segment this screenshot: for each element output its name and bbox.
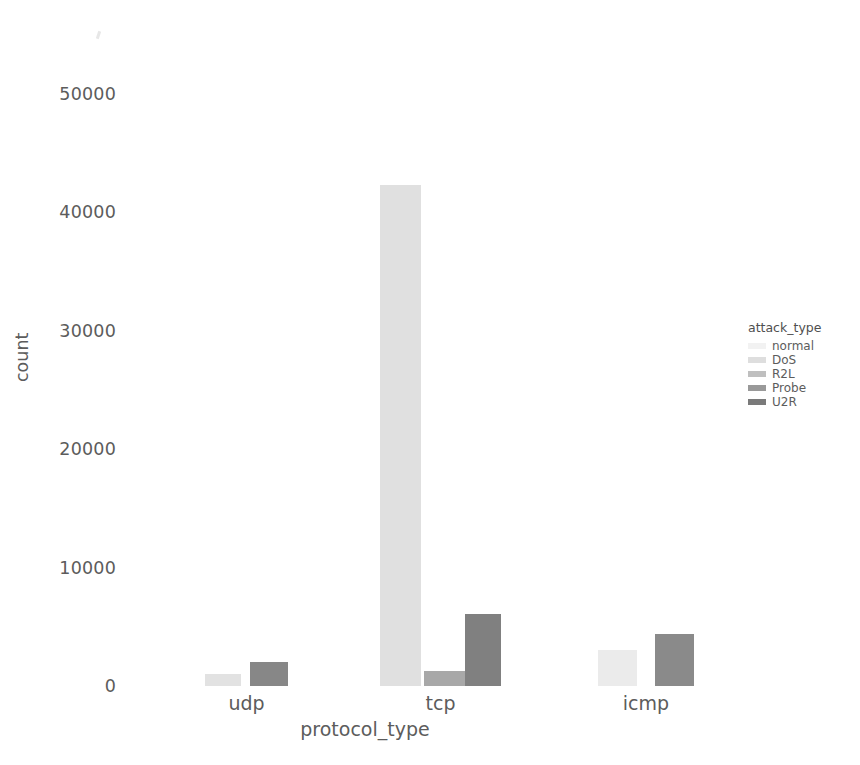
legend-label-normal: normal bbox=[772, 340, 814, 352]
bar-udp-U2R bbox=[250, 662, 288, 686]
legend-title: attack_type bbox=[748, 322, 821, 335]
legend-swatch-normal bbox=[748, 343, 766, 349]
legend-swatch-u2r bbox=[748, 399, 766, 405]
stray-mark-artifact bbox=[96, 31, 101, 40]
legend-swatch-probe bbox=[748, 385, 766, 391]
x-axis-title: protocol_type bbox=[0, 718, 730, 740]
y-axis-tick-50000: 50000 bbox=[26, 84, 116, 104]
bar-icmp-U2R bbox=[655, 634, 694, 686]
y-axis-tick-40000: 40000 bbox=[26, 202, 116, 222]
y-axis-tick-10000: 10000 bbox=[26, 558, 116, 578]
legend-item-u2r: U2R bbox=[748, 396, 821, 409]
y-axis-tick-0: 0 bbox=[26, 676, 116, 696]
legend-item-r2l: R2L bbox=[748, 368, 821, 381]
bar-udp-DoS bbox=[205, 674, 241, 686]
x-axis-tick-icmp: icmp bbox=[556, 692, 736, 714]
legend-swatch-r2l bbox=[748, 371, 766, 377]
legend-items: normalDoSR2LProbeU2R bbox=[748, 340, 821, 409]
bar-tcp-R2L bbox=[424, 671, 465, 686]
x-axis-tick-udp: udp bbox=[157, 692, 337, 714]
legend-label-u2r: U2R bbox=[772, 396, 797, 408]
y-axis-tick-20000: 20000 bbox=[26, 439, 116, 459]
bar-icmp-normal bbox=[598, 650, 637, 686]
x-axis-tick-tcp: tcp bbox=[351, 692, 531, 714]
legend-swatch-dos bbox=[748, 357, 766, 363]
legend-label-dos: DoS bbox=[772, 354, 796, 366]
chart-canvas: 01000020000300004000050000 count udptcpi… bbox=[0, 0, 860, 765]
legend-item-dos: DoS bbox=[748, 354, 821, 367]
legend-item-probe: Probe bbox=[748, 382, 821, 395]
legend-item-normal: normal bbox=[748, 340, 821, 353]
legend: attack_type normalDoSR2LProbeU2R bbox=[748, 322, 821, 410]
legend-label-probe: Probe bbox=[772, 382, 806, 394]
bar-tcp-DoS bbox=[380, 185, 421, 686]
bar-tcp-U2R bbox=[465, 614, 501, 686]
plot-area bbox=[120, 94, 740, 686]
y-axis-title: count bbox=[12, 333, 32, 382]
legend-label-r2l: R2L bbox=[772, 368, 795, 380]
y-axis-tick-30000: 30000 bbox=[26, 321, 116, 341]
